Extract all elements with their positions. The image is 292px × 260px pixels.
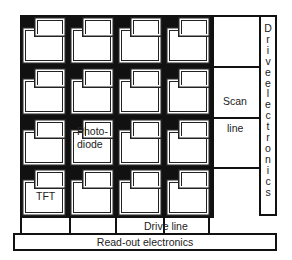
scan-label: Scan <box>223 95 247 107</box>
photodiode-area <box>169 132 207 163</box>
photodiode-joint <box>39 180 62 186</box>
drive-electronics-letter: c <box>261 176 275 187</box>
photodiode-joint <box>39 79 62 85</box>
photodiode-area <box>73 182 111 213</box>
photodiode-joint <box>39 28 62 34</box>
drive-line-col-2 <box>115 217 117 234</box>
photodiode-joint <box>183 180 206 186</box>
photodiode-area <box>169 81 207 112</box>
photodiode-joint <box>87 79 110 85</box>
tft-switch <box>21 118 34 130</box>
scan-column-right-edge <box>212 15 214 218</box>
drive-line-col-0 <box>20 217 22 234</box>
pixel-cell <box>69 67 115 116</box>
drive-line-col-4 <box>208 217 210 234</box>
photodiode-area <box>25 30 63 61</box>
photodiode-joint <box>135 130 158 136</box>
tft-switch <box>69 67 82 79</box>
tft-switch <box>165 168 178 180</box>
tft-switch <box>69 16 82 28</box>
pixel-cell <box>117 16 163 65</box>
photodiode-area <box>121 81 159 112</box>
pixel-cell <box>117 168 163 217</box>
photodiode-area <box>25 132 63 163</box>
tft-switch <box>165 118 178 130</box>
readout-electronics-label: Read-out electronics <box>97 236 193 248</box>
pixel-cell <box>69 16 115 65</box>
pixel-cell <box>165 16 211 65</box>
photodiode-joint <box>183 79 206 85</box>
drive-electronics-letter: e <box>261 67 275 78</box>
tft-switch <box>69 168 82 180</box>
tft-switch <box>117 16 130 28</box>
pixel-cell <box>165 168 211 217</box>
pixel-cell <box>117 118 163 167</box>
tft-switch <box>21 168 34 180</box>
photodiode-joint <box>135 180 158 186</box>
pixel-cell <box>21 16 67 65</box>
photodiode-area <box>121 30 159 61</box>
tft-switch <box>117 67 130 79</box>
scan-line-row-3 <box>212 167 260 169</box>
pixel-cell <box>69 168 115 217</box>
photodiode-joint <box>87 28 110 34</box>
pixel-cell <box>21 67 67 116</box>
drive-electronics-label: Driveelectronics <box>261 23 275 198</box>
photodiode-joint <box>135 28 158 34</box>
drive-electronics-letter: s <box>261 187 275 198</box>
pixel-cell <box>165 67 211 116</box>
readout-electronics-box: Read-out electronics <box>13 233 277 251</box>
tft-switch <box>21 67 34 79</box>
photodiode-area <box>169 30 207 61</box>
photodiode-area <box>121 132 159 163</box>
photodiode-label-line1: Photo- <box>77 125 108 137</box>
photodiode-joint <box>39 130 62 136</box>
photodiode-joint <box>135 79 158 85</box>
photodiode-label-line2: diode <box>77 138 103 150</box>
pixel-cell <box>21 118 67 167</box>
pixel-cell <box>117 67 163 116</box>
photodiode-joint <box>183 28 206 34</box>
tft-switch <box>21 16 34 28</box>
photodiode-area <box>121 182 159 213</box>
scan-line-row-2 <box>212 117 260 119</box>
tft-label: TFT <box>36 190 55 202</box>
photodiode-joint <box>183 130 206 136</box>
pixel-cell <box>165 118 211 167</box>
tft-switch <box>165 67 178 79</box>
photodiode-area <box>25 81 63 112</box>
drive-line-col-1 <box>69 217 71 234</box>
photodiode-area <box>73 30 111 61</box>
photodiode-joint <box>87 180 110 186</box>
photodiode-area <box>73 81 111 112</box>
scan-line-top <box>212 15 260 17</box>
scan-line-row-1 <box>212 66 260 68</box>
tft-switch <box>117 118 130 130</box>
drive-line-label: Drive line <box>144 220 188 232</box>
drive-electronics-letter: v <box>261 56 275 67</box>
tft-switch <box>165 16 178 28</box>
drive-electronics-box: Driveelectronics <box>259 15 277 216</box>
line-label: line <box>227 122 243 134</box>
photodiode-area <box>169 182 207 213</box>
tft-switch <box>117 168 130 180</box>
